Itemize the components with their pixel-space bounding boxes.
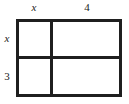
cell-bottom-left — [19, 59, 50, 94]
cell-bottom-right — [53, 59, 119, 94]
row-label-3: 3 — [1, 71, 13, 82]
column-label-x: x — [22, 2, 46, 13]
cell-top-right — [53, 22, 119, 56]
row-label-x: x — [1, 33, 13, 44]
column-label-4: 4 — [74, 2, 100, 13]
area-model-diagram: x 4 x 3 — [0, 0, 129, 104]
cell-top-left — [19, 22, 50, 56]
